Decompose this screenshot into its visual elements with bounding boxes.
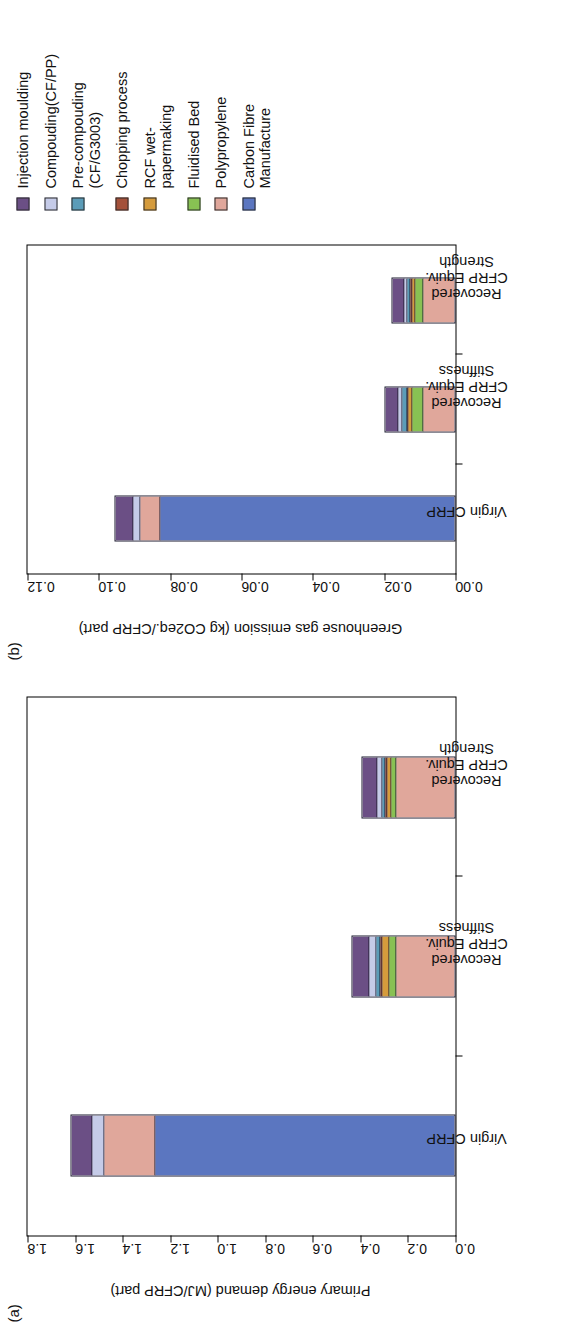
stacked-bar — [114, 495, 455, 541]
legend-item: Compouding(CF/PP) — [42, 4, 59, 210]
x-axis-tick — [455, 1055, 462, 1056]
legend-item: Chopping process — [113, 4, 130, 210]
bar-segment — [140, 496, 160, 540]
y-axis-tick-label: 0.02 — [384, 578, 411, 594]
bar-segment — [352, 936, 369, 996]
y-axis-tick-label: 0.12 — [27, 578, 54, 594]
bar-segment — [377, 757, 382, 817]
bar-segment — [115, 496, 133, 540]
bar-segment — [398, 387, 403, 431]
y-axis-tick-label: 1.8 — [27, 1240, 46, 1256]
rotated-figure-wrapper: (a) Primary energy demand (MJ/CFRP part)… — [0, 0, 587, 1328]
figure-page: (a) Primary energy demand (MJ/CFRP part)… — [0, 0, 587, 1328]
legend-item-label: Injection moulding — [14, 71, 31, 188]
x-axis-category-label: Recovered CFRP Equiv. Stiffness — [406, 918, 526, 967]
y-axis-tick-label: 0.4 — [360, 1240, 379, 1256]
bar-segment — [362, 757, 377, 817]
legend-item: Carbon Fibre Manufacture — [240, 4, 273, 210]
legend-item-label: Fluidised Bed — [185, 100, 202, 188]
y-axis-tick-label: 0.04 — [312, 578, 339, 594]
legend-item-label: RCF wet- papermaking — [141, 104, 174, 188]
legend-item-label: Polypropylene — [212, 96, 229, 188]
bar-segment — [389, 936, 396, 996]
y-axis-tick-label: 0.8 — [265, 1240, 284, 1256]
y-axis-tick-label: 1.2 — [170, 1240, 189, 1256]
panel-b-y-axis-title: Greenhouse gas emission (kg CO2eq./CFRP … — [26, 620, 454, 636]
bar-segment — [133, 496, 140, 540]
bar-segment — [385, 387, 398, 431]
legend-item-label: Chopping process — [113, 71, 130, 188]
panel-a-y-axis-title: Primary energy demand (MJ/CFRP part) — [26, 1282, 454, 1298]
x-axis-category-label: Virgin CFRP — [406, 1130, 526, 1146]
x-axis-category-label: Recovered CFRP Equiv. Strength — [406, 252, 526, 301]
legend-item: Pre-compouding (CF/G3003) — [69, 4, 102, 210]
bar-segment — [382, 936, 389, 996]
panel-a-tag: (a) — [4, 1304, 21, 1322]
panel-b-tag: (b) — [4, 642, 21, 660]
x-axis-category-label: Recovered CFRP Equiv. Strength — [406, 739, 526, 788]
panel-a: (a) Primary energy demand (MJ/CFRP part)… — [0, 668, 587, 1328]
y-axis-tick-label: 0.2 — [407, 1240, 426, 1256]
bar-segment — [387, 757, 391, 817]
y-axis-tick-label: 1.4 — [122, 1240, 141, 1256]
x-axis-tick — [455, 463, 462, 464]
bar-segment — [104, 1115, 155, 1175]
x-axis-tick — [455, 353, 462, 354]
legend-item: RCF wet- papermaking — [141, 4, 174, 210]
legend: Injection mouldingCompouding(CF/PP)Pre-c… — [14, 4, 284, 210]
y-axis-tick-label: 1.0 — [217, 1240, 236, 1256]
legend-swatch-icon — [16, 197, 29, 210]
bar-segment — [71, 1115, 92, 1175]
y-axis-tick-label: 0.10 — [98, 578, 125, 594]
bar-segment — [92, 1115, 104, 1175]
x-axis-category-label: Virgin CFRP — [406, 503, 526, 519]
y-axis-tick-label: 1.6 — [75, 1240, 94, 1256]
legend-swatch-icon — [242, 197, 255, 210]
legend-item: Injection moulding — [14, 4, 31, 210]
figure: (a) Primary energy demand (MJ/CFRP part)… — [0, 0, 587, 1328]
bar-segment — [369, 936, 376, 996]
legend-swatch-icon — [187, 197, 200, 210]
y-axis-tick-label: 0.0 — [455, 1240, 474, 1256]
y-axis-tick-label: 0.06 — [241, 578, 268, 594]
panel-a-plot-area: 0.00.20.40.60.81.01.21.41.61.8 — [26, 696, 456, 1236]
legend-swatch-icon — [44, 197, 57, 210]
legend-swatch-icon — [143, 197, 156, 210]
x-axis-category-label: Recovered CFRP Equiv. Stiffness — [406, 361, 526, 410]
bar-segment — [391, 757, 396, 817]
legend-item: Fluidised Bed — [185, 4, 202, 210]
bar-segment — [392, 278, 403, 322]
legend-swatch-icon — [71, 197, 84, 210]
bar-segment — [376, 936, 380, 996]
legend-swatch-icon — [115, 197, 128, 210]
stacked-bar — [70, 1114, 455, 1176]
legend-item-label: Carbon Fibre Manufacture — [240, 103, 273, 188]
panel-b-plot-area: 0.000.020.040.060.080.100.12 — [26, 244, 456, 574]
y-axis-tick-label: 0.6 — [312, 1240, 331, 1256]
panel-b: (b) Greenhouse gas emission (kg CO2eq./C… — [0, 226, 587, 666]
legend-item-label: Pre-compouding (CF/G3003) — [69, 82, 102, 188]
legend-item: Polypropylene — [212, 4, 229, 210]
legend-swatch-icon — [214, 197, 227, 210]
y-axis-tick-label: 0.00 — [455, 578, 482, 594]
y-axis-tick-label: 0.08 — [170, 578, 197, 594]
x-axis-tick — [455, 875, 462, 876]
legend-item-label: Compouding(CF/PP) — [42, 53, 59, 188]
